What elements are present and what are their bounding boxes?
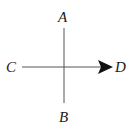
label-a: A	[57, 9, 68, 25]
cross-diagram: A B C D	[0, 0, 134, 130]
label-b: B	[59, 109, 68, 125]
label-d: D	[114, 59, 126, 75]
label-c: C	[6, 59, 17, 75]
